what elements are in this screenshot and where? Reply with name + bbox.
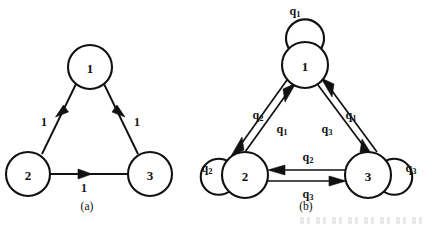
edge-a-1-2-line bbox=[42, 84, 76, 154]
edge-a-1-3-line bbox=[104, 84, 138, 154]
edge-b-3-2-sub: 2 bbox=[309, 155, 313, 165]
edge-b-1-2-label: q2 bbox=[253, 108, 264, 123]
caption-b: (b) bbox=[299, 200, 313, 213]
figure-root: 1 1 1 1 2 bbox=[0, 0, 432, 226]
edge-b-2-1-sub: 1 bbox=[283, 127, 287, 137]
edge-b-3-to-1: q1 bbox=[321, 78, 377, 152]
edge-a-1-2-arrowhead bbox=[56, 105, 69, 117]
edge-b-3-1-sub: 1 bbox=[352, 113, 356, 123]
edge-a-2-3-label: 1 bbox=[81, 181, 87, 195]
node-a-3-label: 3 bbox=[147, 168, 154, 183]
edge-b-3-to-2: q2 bbox=[268, 150, 345, 175]
edge-b-2-to-3: q3 bbox=[267, 176, 346, 202]
edge-a-2-3-arrowhead bbox=[78, 169, 92, 179]
edge-b-3-2-label: q2 bbox=[303, 150, 314, 165]
edge-b-3-1-label: q1 bbox=[346, 108, 357, 123]
self-loop-b-1-sub: 1 bbox=[296, 9, 300, 19]
edge-b-1-2-sub: 2 bbox=[259, 113, 263, 123]
node-a-1-label: 1 bbox=[87, 61, 94, 76]
node-a-3: 3 bbox=[128, 152, 172, 196]
node-b-1: 1 bbox=[282, 42, 328, 88]
node-b-3: 3 bbox=[345, 152, 391, 198]
panel-b: q1 q2 q3 q2 bbox=[201, 4, 417, 213]
diagram-canvas: 1 1 1 1 2 bbox=[0, 0, 432, 226]
caption-a: (a) bbox=[81, 200, 94, 213]
node-a-2-label: 2 bbox=[25, 168, 32, 183]
edge-a-1-3-label: 1 bbox=[134, 115, 140, 129]
edge-a-2-to-3: 1 bbox=[50, 169, 128, 195]
self-loop-b-2-sub: 2 bbox=[208, 166, 212, 176]
node-b-2-label: 2 bbox=[242, 169, 249, 184]
edge-b-1-to-2: q2 bbox=[231, 80, 287, 156]
edge-b-2-to-1: q1 bbox=[240, 83, 296, 159]
edge-a-1-2-label: 1 bbox=[41, 115, 47, 129]
edge-b-2-1-label: q1 bbox=[277, 122, 288, 137]
edge-b-3-2-arrowhead bbox=[268, 165, 285, 175]
edge-b-2-3-arrowhead bbox=[329, 176, 346, 186]
node-b-1-label: 1 bbox=[302, 59, 309, 74]
edge-a-1-to-2: 1 bbox=[41, 84, 76, 154]
self-loop-b-3-sub: 3 bbox=[412, 166, 416, 176]
edge-b-1-3-label: q3 bbox=[322, 122, 333, 137]
self-loop-b-2-label: q2 bbox=[202, 161, 213, 176]
node-b-2: 2 bbox=[222, 152, 268, 198]
self-loop-b-3-label: q3 bbox=[406, 161, 417, 176]
node-b-3-label: 3 bbox=[365, 169, 372, 184]
node-a-2: 2 bbox=[6, 152, 50, 196]
node-a-1: 1 bbox=[68, 45, 112, 89]
self-loop-b-1-label: q1 bbox=[290, 4, 301, 19]
edge-a-1-to-3: 1 bbox=[104, 84, 140, 154]
panel-a: 1 1 1 1 2 bbox=[6, 45, 172, 213]
edge-b-1-3-sub: 3 bbox=[328, 127, 332, 137]
